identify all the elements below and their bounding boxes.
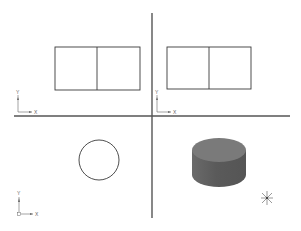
front-view-rectangle[interactable] <box>55 47 140 90</box>
ucs-x-label: X <box>34 109 38 115</box>
viewport-side-view[interactable]: Y X <box>155 47 251 115</box>
cad-drawing-canvas[interactable]: Y X Y X Y X <box>0 0 301 231</box>
shaded-cylinder[interactable] <box>192 138 246 187</box>
ucs-x-label: X <box>35 211 39 217</box>
ucs-icon: Y X <box>16 89 38 115</box>
ucs-y-label: Y <box>155 89 159 95</box>
ucs-icon-with-origin-box: Y X <box>17 190 39 217</box>
viewport-top-view[interactable]: Y X <box>17 140 119 217</box>
viewport-front-view[interactable]: Y X <box>16 47 140 115</box>
ucs-x-label: X <box>173 109 177 115</box>
ucs-y-label: Y <box>16 89 20 95</box>
ucs-y-label: Y <box>17 190 21 196</box>
top-view-circle[interactable] <box>79 140 119 180</box>
viewport-isometric-view[interactable] <box>192 138 273 205</box>
perspective-icon <box>261 191 273 205</box>
ucs-icon: Y X <box>155 89 177 115</box>
